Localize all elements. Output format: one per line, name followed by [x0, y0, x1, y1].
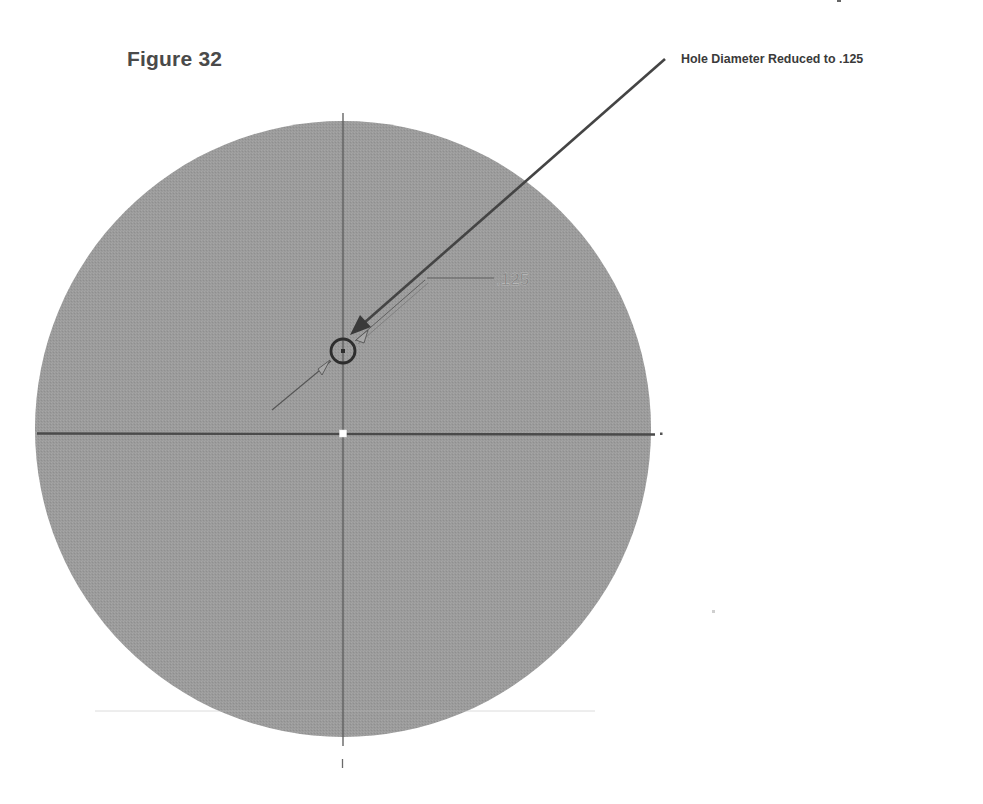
- sketch-canvas: .125: [0, 0, 983, 804]
- origin-point[interactable]: [340, 430, 347, 437]
- scan-artifact: [837, 0, 841, 2]
- scan-artifact: [712, 610, 715, 613]
- vertical-centerline[interactable]: [343, 113, 344, 768]
- hole-center-point: [341, 349, 345, 353]
- dimension-value[interactable]: .125: [496, 270, 529, 289]
- axis-endpoint-dot: [660, 433, 663, 436]
